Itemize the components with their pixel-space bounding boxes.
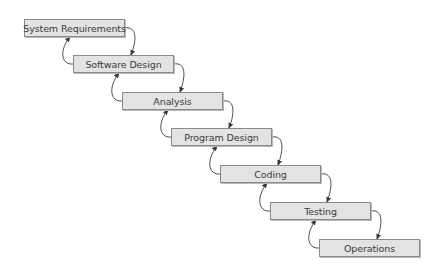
stage-software-design: Software Design: [73, 55, 174, 73]
stage-system-requirements: System Requirements: [24, 19, 125, 37]
waterfall-diagram: System Requirements Software Design Anal…: [0, 0, 445, 272]
feedback-arrow: [112, 73, 122, 101]
feedback-arrow: [63, 37, 73, 64]
feedback-arrow: [210, 146, 220, 174]
stage-analysis: Analysis: [122, 92, 223, 110]
feedback-arrow: [161, 110, 171, 137]
forward-arrow: [321, 174, 331, 202]
forward-arrow: [272, 137, 282, 165]
forward-arrow: [125, 28, 135, 55]
stage-operations: Operations: [319, 239, 420, 257]
forward-arrow: [371, 211, 381, 239]
stage-testing: Testing: [270, 202, 371, 220]
stage-coding: Coding: [220, 165, 321, 183]
feedback-arrow: [260, 183, 270, 211]
stage-program-design: Program Design: [171, 128, 272, 146]
forward-arrow: [223, 101, 233, 128]
feedback-arrow: [309, 220, 319, 248]
forward-arrow: [174, 64, 184, 92]
